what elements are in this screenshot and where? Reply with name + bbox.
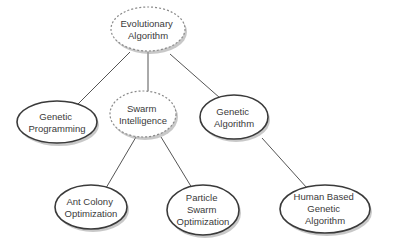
edge-ga-hbga: [262, 138, 307, 188]
node-genetic-algorithm: Genetic Algorithm: [200, 95, 270, 142]
node-label: Evolutionary Algorithm: [121, 18, 176, 41]
node-evolutionary-algorithm: Evolutionary Algorithm: [111, 7, 187, 54]
edge-si-aco: [106, 137, 136, 188]
node-ant-colony-optimization: Ant Colony Optimization: [55, 185, 129, 232]
node-human-based-genetic-algorithm: Human Based Genetic Algorithm: [280, 185, 372, 236]
evolutionary-algorithm-tree-diagram: Evolutionary Algorithm Genetic Programmi…: [0, 0, 393, 246]
edge-si-pso: [161, 137, 192, 188]
node-label: Ant Colony Optimization: [65, 196, 118, 219]
node-swarm-intelligence: Swarm Intelligence: [110, 91, 178, 140]
node-label: Genetic Algorithm: [214, 106, 254, 129]
node-genetic-programming: Genetic Programming: [17, 101, 99, 146]
edge-ea-ga: [170, 54, 220, 98]
node-particle-swarm-optimization: Particle Swarm Optimization: [167, 185, 241, 238]
